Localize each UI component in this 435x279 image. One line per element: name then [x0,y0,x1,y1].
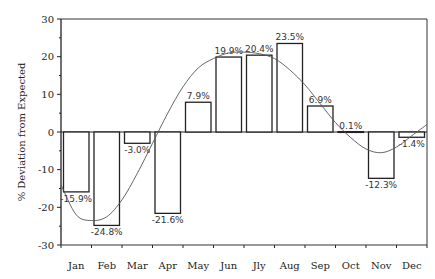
bar-rect [308,106,334,132]
bar-rect [369,132,395,178]
bar-value-label: 0.1% [339,121,362,131]
bar-jly: 20.4% [245,44,274,132]
bar-value-label: -1.4% [399,139,426,149]
bar-nov: -12.3% [365,132,397,190]
y-tick-label: 30 [41,14,54,25]
y-tick-label: -30 [38,240,54,251]
bar-value-label: -21.6% [152,215,184,225]
x-tick-label: Sep [311,260,330,271]
bar-value-label: 19.9% [214,46,243,56]
bar-jun: 19.9% [214,46,243,132]
x-tick-label: Mar [127,260,148,271]
bar-value-label: -15.9% [60,194,92,204]
bars: -15.9%-24.8%-3.0%-21.6%7.9%19.9%20.4%23.… [60,32,425,237]
bar-rect [155,132,181,213]
x-tick-label: Feb [97,260,116,271]
bar-rect [399,132,425,137]
x-tick-label: Jun [219,260,237,271]
x-tick-label: Jan [67,260,85,271]
bar-rect [216,57,242,132]
bar-value-label: -24.8% [91,227,123,237]
x-tick-label: Apr [158,260,178,271]
x-tick-label: Aug [279,260,301,271]
y-axis: 3020100-10-20-30 [38,14,61,251]
y-axis-title: % Deviation from Expected [16,62,27,201]
bar-rect [125,132,151,143]
deviation-bar-chart: % Deviation from Expected 3020100-10-20-… [0,0,435,279]
x-tick-label: Oct [342,260,360,271]
bar-sep: 6.9% [308,95,334,132]
bar-may: 7.9% [186,91,212,132]
bar-rect [247,55,273,132]
y-axis-label: % Deviation from Expected [16,62,27,201]
bar-value-label: 7.9% [187,91,210,101]
bar-dec: -1.4% [399,132,426,149]
y-tick-label: 10 [41,89,54,100]
bar-oct: 0.1% [338,121,364,133]
x-tick-label: Nov [371,260,392,271]
x-tick-label: Dec [402,260,422,271]
y-tick-label: 0 [48,127,54,138]
y-tick-label: -20 [38,202,54,213]
bar-aug: 23.5% [275,32,304,132]
x-tick-label: Jly [252,260,266,271]
bar-feb: -24.8% [91,132,123,237]
y-tick-label: 20 [41,51,54,62]
bar-apr: -21.6% [152,132,184,225]
x-tick-label: May [187,260,209,271]
bar-mar: -3.0% [124,132,151,155]
x-axis: JanFebMarAprMayJunJlyAugSepOctNovDec [61,245,427,271]
bar-rect [186,102,212,132]
bar-rect [64,132,90,192]
bar-rect [94,132,120,225]
bar-rect [277,43,303,132]
bar-value-label: -12.3% [365,180,397,190]
bar-value-label: 23.5% [275,32,304,42]
bar-rect [338,132,364,133]
y-tick-label: -10 [38,164,54,175]
